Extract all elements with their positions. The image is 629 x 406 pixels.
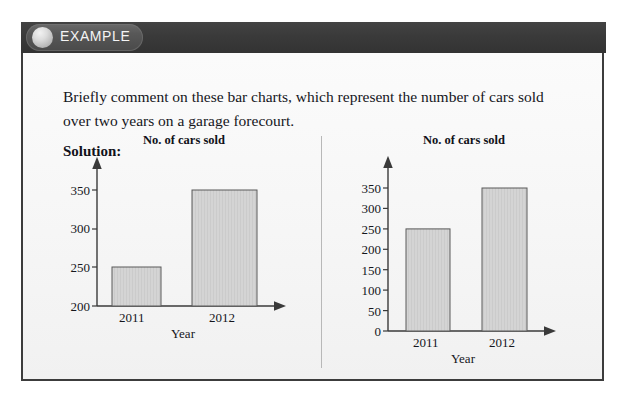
question-text: Briefly comment on these bar charts, whi… <box>63 85 573 133</box>
example-badge: EXAMPLE <box>26 24 143 51</box>
example-header-bar: EXAMPLE <box>21 22 606 53</box>
example-label: EXAMPLE <box>60 28 130 44</box>
page-canvas: EXAMPLE Briefly comment on these bar cha… <box>0 0 629 406</box>
solution-label: Solution: <box>63 143 121 160</box>
example-box: EXAMPLE Briefly comment on these bar cha… <box>21 22 606 383</box>
example-body: Briefly comment on these bar charts, whi… <box>21 53 604 381</box>
circle-bullet-icon <box>32 27 53 48</box>
